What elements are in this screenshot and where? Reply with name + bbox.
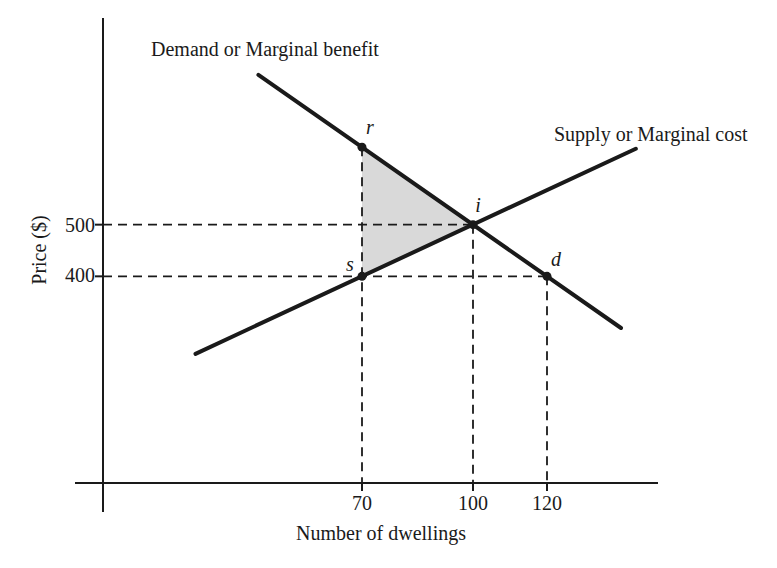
supply-curve-label: Supply or Marginal cost xyxy=(554,123,748,145)
point-label-s: s xyxy=(335,253,365,275)
x-tick-label-120: 120 xyxy=(522,492,572,514)
y-tick-label-400: 400 xyxy=(53,264,95,286)
point-label-r: r xyxy=(355,116,385,138)
demand-curve-label: Demand or Marginal benefit xyxy=(151,38,379,60)
x-axis-title: Number of dwellings xyxy=(271,522,491,544)
point-label-i: i xyxy=(463,194,493,216)
y-axis-title: Price ($) xyxy=(28,200,52,300)
point-dot-d xyxy=(543,272,552,281)
x-tick-label-100: 100 xyxy=(448,492,498,514)
point-dot-i xyxy=(469,220,478,229)
supply-demand-figure: Demand or Marginal benefit Supply or Mar… xyxy=(0,0,777,568)
x-tick-label-70: 70 xyxy=(337,492,387,514)
y-tick-label-500: 500 xyxy=(53,214,95,236)
point-dot-r xyxy=(358,143,367,152)
demand-line xyxy=(258,75,621,328)
chart-canvas xyxy=(0,0,777,568)
point-label-d: d xyxy=(541,248,571,270)
